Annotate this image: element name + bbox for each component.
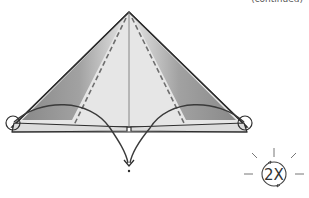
origami-diagram: 2X — [0, 0, 309, 198]
repeat-icon: 2X — [244, 148, 304, 187]
arrowhead-icon — [124, 160, 134, 166]
repeat-label: 2X — [264, 166, 284, 184]
